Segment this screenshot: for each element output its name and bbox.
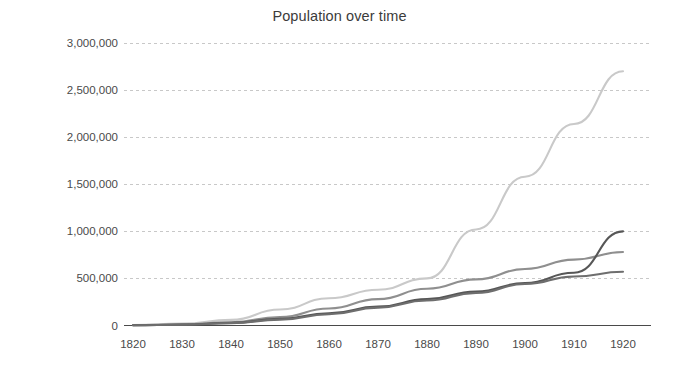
- series-line-series-2: [133, 252, 623, 325]
- series-line-series-1: [133, 71, 623, 325]
- series-lines: [133, 71, 623, 325]
- gridlines: [124, 43, 651, 278]
- plot-area: [0, 0, 687, 376]
- population-line-chart: Population over time 0500,0001,000,0001,…: [0, 0, 687, 376]
